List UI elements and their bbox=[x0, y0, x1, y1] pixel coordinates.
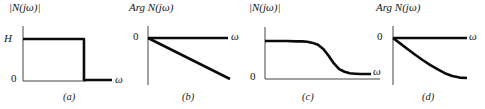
curve-c bbox=[265, 41, 371, 74]
panel-a-caption: (a) bbox=[63, 92, 75, 103]
panel-d-caption: (d) bbox=[422, 92, 434, 103]
panel-a-ymax-label: H bbox=[4, 33, 12, 44]
panel-b-caption: (b) bbox=[182, 92, 194, 103]
panel-b-omega-label: ω bbox=[231, 31, 239, 42]
panel-c-origin-label: 0 bbox=[250, 71, 256, 82]
frequency-response-figure: |N(jω)| H 0 ω (a) Arg N(jω) 0 ω (b) |N(j… bbox=[0, 0, 485, 109]
panel-b-origin-label: 0 bbox=[133, 31, 139, 42]
panel-a-origin-label: 0 bbox=[11, 73, 17, 84]
panel-d-title: Arg N(jω) bbox=[376, 2, 420, 13]
panel-c-caption: (c) bbox=[302, 92, 314, 103]
panel-a-title: |N(jω)| bbox=[9, 2, 41, 13]
panel-d-omega-label: ω bbox=[469, 31, 477, 42]
panel-a-omega-label: ω bbox=[115, 74, 123, 85]
panel-c-omega-label: ω bbox=[373, 66, 381, 77]
panel-c-title: |N(jω)| bbox=[249, 2, 281, 13]
panel-b-title: Arg N(jω) bbox=[129, 2, 173, 13]
curve-a bbox=[23, 39, 112, 80]
curve-b bbox=[148, 38, 230, 79]
panel-d-origin-label: 0 bbox=[377, 31, 383, 42]
curve-d bbox=[393, 38, 467, 78]
